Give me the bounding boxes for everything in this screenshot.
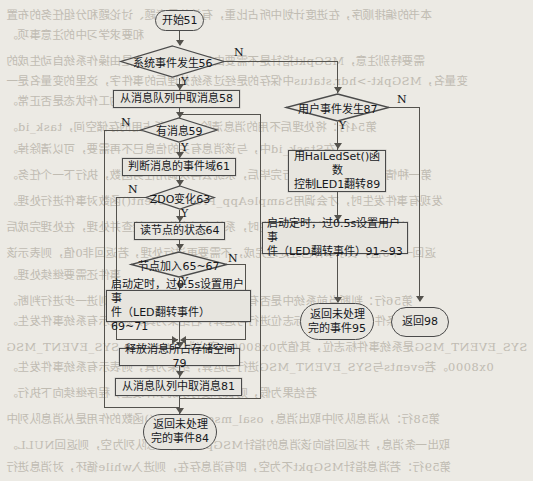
edge-label-sysevent-n: N: [234, 46, 244, 59]
node-decision-node-join[interactable]: 节点加入65~67: [130, 251, 228, 278]
node-return-unprocessed-95-line2: 完的事件95: [308, 322, 366, 336]
arrow-head: [334, 143, 342, 149]
connector-hasmsg-n-bottom: [104, 407, 180, 408]
connector-hasmsg-n-down: [104, 130, 105, 408]
bleed-text-line: 发现有事件发生时，才会调用SampleApp_ProcessEvent()函数对…: [6, 192, 443, 208]
connector-zdo-n: [116, 197, 146, 198]
node-decision-zdo-change-label: ZDO变化63: [145, 185, 215, 210]
node-judge-event-domain-61-label: 判断消息的事件域61: [128, 160, 230, 174]
node-start-timer-91[interactable]: 启动定时，过0.5s设置用户事 件（LED翻转事件）91~93: [262, 222, 408, 254]
bleed-text-line: 第58行：从消息队列中取出消息，osal_msg_receive()函数的作用是…: [6, 410, 440, 426]
bleed-text-line: SYS_EVENT_MSG是系统事件标志位，其值为0x8000，定义为：#def…: [6, 338, 527, 354]
connector-join-n-merge: [182, 339, 246, 340]
node-return-unprocessed-84-line1: 返回未处理: [153, 418, 208, 432]
node-decision-user-event[interactable]: 用户事件发生87: [285, 93, 390, 122]
edge-label-sysevent-y: Y: [181, 75, 188, 88]
node-start-timer-69[interactable]: 启动定时，过0.5s设置用户事 件（LED翻转事件）69~71: [106, 290, 251, 322]
connector-sysevent-n: [225, 61, 338, 62]
arrow-head: [176, 244, 184, 250]
edge-label-hasmsg-y: Y: [181, 141, 188, 154]
node-return-unprocessed-95-line1: 返回未处理: [310, 308, 365, 322]
node-free-memory-79-label: 释放消息所占存储空间79: [123, 343, 236, 371]
node-free-memory-79[interactable]: 释放消息所占存储空间79: [119, 348, 240, 366]
bleed-text-line: 第59行：若消息指针MSGpkt不为空，即有消息存在，则进入while循环，对消…: [6, 458, 451, 474]
node-halledset-89[interactable]: 用HalLedSet()函数 控制LED1翻转89: [288, 150, 386, 192]
bleed-text-line: 取出一条消息，并返回指向该消息的指针MSGpkt，若消息队列为空，则返回NULL…: [6, 436, 450, 452]
node-decision-node-join-label: 节点加入65~67: [130, 251, 228, 278]
node-read-node-state-64-label: 读节点的状态64: [140, 224, 220, 238]
node-decision-system-event[interactable]: 系统事件发生56: [120, 45, 225, 78]
node-decision-user-event-label: 用户事件发生87: [285, 93, 390, 122]
arrow-head: [176, 371, 184, 377]
node-return-98[interactable]: 返回98: [391, 307, 449, 337]
node-decision-has-message-label: 有消息59: [140, 117, 218, 143]
node-get-message-81[interactable]: 从消息队列中取消息81: [115, 378, 242, 396]
connector-zdo-n-join: [116, 339, 178, 340]
node-start-timer-69-line2: 件（LED翻转事件）69~71: [111, 306, 246, 334]
bleed-text-line: 变量名，MSGpkt->hdr.status中保存的是经过系统处理后的事件字，这…: [6, 72, 468, 88]
connector-getmsg81-to-rail: [179, 398, 261, 399]
node-get-message-58[interactable]: 从消息队列中取消息58: [113, 90, 240, 108]
node-start-timer-91-line1: 启动定时，过0.5s设置用户事: [267, 217, 403, 245]
node-start[interactable]: 开始51: [155, 10, 204, 31]
connector-loop-top: [179, 114, 261, 115]
node-read-node-state-64[interactable]: 读节点的状态64: [134, 222, 225, 240]
bleed-text-line: 和要求学习中的注意事项。: [6, 26, 144, 42]
edge-label-join-n: N: [228, 252, 238, 265]
edge-label-zdo-n: N: [128, 183, 138, 196]
flowchart-page: 本书的编排顺序，在进度计划中所占比重，有关的思考题、讨论题和分组任务的布置 和要…: [0, 0, 533, 481]
node-return-unprocessed-84-line2: 完的事件84: [151, 432, 209, 446]
node-return-unprocessed-95[interactable]: 返回未处理 完的事件95: [300, 303, 374, 340]
edge-label-join-y: Y: [181, 275, 188, 288]
node-start-timer-91-line2: 件（LED翻转事件）91~93: [267, 245, 403, 259]
node-start-timer-69-line1: 启动定时，过0.5s设置用户事: [111, 278, 246, 306]
bleed-text-line: 0x8000。若events与SYS_EVENT_MSG进行与运算，结果为真，则…: [6, 358, 494, 374]
node-return-98-label: 返回98: [402, 315, 438, 329]
edge-label-userevent-y: Y: [339, 119, 346, 132]
connector-loop-riser: [260, 114, 261, 398]
node-return-unprocessed-84[interactable]: 返回未处理 完的事件84: [143, 414, 217, 450]
connector-userevent-n-down: [419, 107, 420, 301]
connector-hasmsg-n: [104, 130, 141, 131]
node-get-message-58-label: 从消息队列中取消息58: [120, 92, 233, 106]
arrow-head: [416, 296, 424, 302]
node-halledset-89-line2: 控制LED1翻转89: [294, 178, 381, 192]
bleed-text-line: 的工作状态是否正常。: [6, 92, 121, 108]
connector-timerright-to-term95: [337, 254, 338, 302]
node-get-message-81-label: 从消息队列中取消息81: [122, 380, 235, 394]
edge-label-userevent-n: N: [397, 93, 407, 106]
node-decision-system-event-label: 系统事件发生56: [120, 45, 225, 78]
edge-label-hasmsg-n: N: [121, 116, 131, 129]
bleed-text-line: 本书的编排顺序，在进度计划中所占比重，有关的思考题、讨论题和分组任务的布置: [6, 6, 432, 22]
node-judge-event-domain-61[interactable]: 判断消息的事件域61: [122, 158, 236, 176]
node-decision-zdo-change[interactable]: ZDO变化63: [145, 185, 215, 210]
connector-userevent-n: [390, 107, 420, 108]
edge-label-zdo-y: Y: [181, 207, 188, 220]
node-start-label: 开始51: [162, 14, 198, 28]
node-halledset-89-line1: 用HalLedSet()函数: [292, 150, 382, 178]
node-decision-has-message[interactable]: 有消息59: [140, 117, 218, 143]
